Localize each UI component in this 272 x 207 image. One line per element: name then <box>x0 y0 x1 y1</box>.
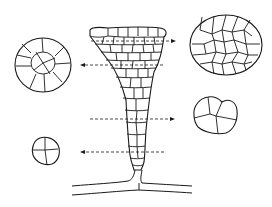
diagram-canvas <box>0 0 272 207</box>
cross-section-lower-mid <box>194 97 237 134</box>
arrow-bottom-left <box>80 150 164 154</box>
central-filament <box>90 27 166 170</box>
cross-section-upper <box>15 38 71 92</box>
basal-filament <box>72 170 192 195</box>
cross-section-top <box>190 15 262 75</box>
cross-section-bottom <box>32 137 59 165</box>
